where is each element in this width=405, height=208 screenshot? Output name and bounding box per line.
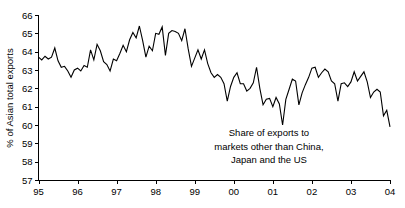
x-axis-ticks: 95969798990001020304 [33,180,395,197]
y-axis-ticks: 66656463626160595857 [22,10,39,186]
chart-annotations: Share of exports tomarkets other than Ch… [214,127,323,165]
y-axis-label-group: % of Asian total exports [4,48,15,148]
y-tick-label: 57 [22,175,33,186]
y-tick-label: 62 [22,83,33,94]
annotation-line: Japan and the US [231,154,307,165]
x-tick-label: 02 [307,186,318,197]
y-tick-label: 60 [22,120,33,131]
x-tick-label: 01 [268,186,279,197]
y-tick-label: 63 [22,65,33,76]
x-tick-label: 97 [111,186,122,197]
data-series-line [39,26,391,127]
x-tick-label: 99 [189,186,200,197]
x-tick-label: 04 [385,186,396,197]
x-tick-label: 03 [346,186,357,197]
chart-container: % of Asian total exports 666564636261605… [0,0,405,208]
x-tick-label: 95 [33,186,44,197]
y-tick-label: 59 [22,138,33,149]
x-tick-label: 98 [150,186,161,197]
y-axis-label: % of Asian total exports [4,48,15,148]
annotation-line: markets other than China, [214,141,323,152]
y-tick-label: 61 [22,101,33,112]
y-tick-label: 65 [22,28,33,39]
y-tick-label: 64 [22,46,33,57]
x-tick-label: 00 [228,186,239,197]
line-chart: % of Asian total exports 666564636261605… [0,0,405,208]
annotation-line: Share of exports to [229,127,309,138]
x-tick-label: 96 [72,186,83,197]
y-tick-label: 66 [22,10,33,21]
y-tick-label: 58 [22,156,33,167]
